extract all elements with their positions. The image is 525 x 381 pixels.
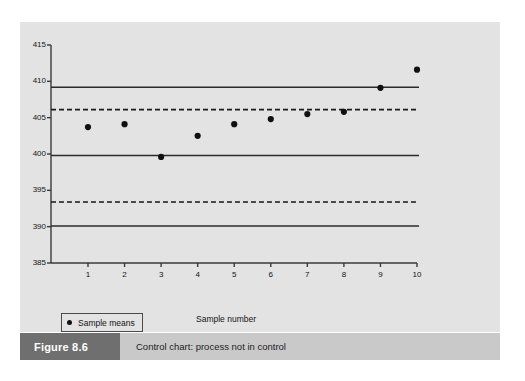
y-tick-label-405: 405 bbox=[20, 113, 46, 122]
y-tick-label-395: 395 bbox=[20, 185, 46, 194]
y-tick-label-400: 400 bbox=[20, 149, 46, 158]
x-tick-label-4: 4 bbox=[188, 270, 208, 279]
x-tick-label-9: 9 bbox=[370, 270, 390, 279]
legend-label: Sample means bbox=[78, 318, 135, 328]
data-point-sample-7 bbox=[304, 111, 310, 117]
figure-caption-bar: Figure 8.6 Control chart: process not in… bbox=[20, 333, 500, 360]
data-point-sample-5 bbox=[231, 121, 237, 127]
data-point-sample-6 bbox=[268, 116, 274, 122]
figure-number: Figure 8.6 bbox=[20, 333, 120, 360]
y-tick-label-410: 410 bbox=[20, 76, 46, 85]
chart-legend: Sample means bbox=[61, 313, 143, 332]
x-tick-label-8: 8 bbox=[334, 270, 354, 279]
data-point-sample-9 bbox=[377, 85, 383, 91]
control-chart-svg bbox=[20, 22, 500, 332]
data-point-sample-2 bbox=[121, 121, 127, 127]
x-tick-label-1: 1 bbox=[78, 270, 98, 279]
x-tick-label-5: 5 bbox=[224, 270, 244, 279]
chart-panel: 38539039540040541041512345678910 Sample … bbox=[20, 22, 500, 332]
data-point-sample-1 bbox=[85, 124, 91, 130]
y-tick-label-385: 385 bbox=[20, 258, 46, 267]
y-tick-label-415: 415 bbox=[20, 40, 46, 49]
figure-container: 38539039540040541041512345678910 Sample … bbox=[0, 0, 525, 381]
data-point-sample-10 bbox=[414, 67, 420, 73]
y-tick-label-390: 390 bbox=[20, 222, 46, 231]
x-tick-label-7: 7 bbox=[297, 270, 317, 279]
x-tick-label-10: 10 bbox=[407, 270, 427, 279]
x-axis-title: Sample number bbox=[196, 314, 256, 324]
x-tick-label-2: 2 bbox=[115, 270, 135, 279]
data-point-sample-8 bbox=[341, 109, 347, 115]
data-point-sample-3 bbox=[158, 154, 164, 160]
legend-marker-dot bbox=[67, 320, 72, 325]
x-tick-label-6: 6 bbox=[261, 270, 281, 279]
plot-area: 38539039540040541041512345678910 Sample … bbox=[20, 22, 500, 332]
data-point-sample-4 bbox=[195, 133, 201, 139]
x-tick-label-3: 3 bbox=[151, 270, 171, 279]
figure-caption-text: Control chart: process not in control bbox=[120, 333, 500, 360]
